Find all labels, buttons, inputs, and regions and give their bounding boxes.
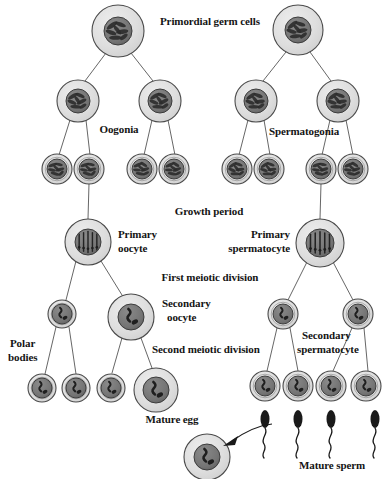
polar-body-3 <box>97 374 125 402</box>
centromere <box>78 246 81 249</box>
oogonia-label: Oogonia <box>99 123 138 135</box>
sperm-tail <box>296 428 299 458</box>
mature-sperm-1 <box>261 410 270 458</box>
centromere <box>87 247 90 250</box>
spermatid-2 <box>283 371 313 401</box>
polar-body-2 <box>62 374 90 402</box>
lineage-line <box>263 52 286 81</box>
spermatogonium-daughter-1 <box>222 154 252 184</box>
oogonium-daughter-3 <box>127 154 157 184</box>
centromere <box>91 247 94 250</box>
spermatogonium-daughter-4 <box>338 154 368 184</box>
lineage-line <box>346 120 353 155</box>
centromere <box>323 248 326 251</box>
meiosis1-line <box>101 261 122 295</box>
first-meiotic-division-label: First meiotic division <box>162 271 259 283</box>
nucleus <box>356 376 376 396</box>
meiosis2-line <box>45 327 56 374</box>
secondary-spermatocyte-right <box>343 299 373 329</box>
oogonium-daughter-4 <box>159 154 189 184</box>
primary-spermatocyte <box>296 219 344 267</box>
oogonium-left <box>57 80 99 122</box>
spermatogonium-left <box>235 80 277 122</box>
meiosis2-line <box>69 327 76 374</box>
secondary-oocyte-label-line1: Secondary <box>162 297 211 309</box>
secondary-oocyte <box>108 294 154 340</box>
primordial-germ-cell-female <box>92 5 144 57</box>
spermatogonium-right <box>317 80 359 122</box>
sperm-head <box>327 410 336 428</box>
secondary-spermatocyte-left <box>268 299 298 329</box>
oogonium-daughter-1 <box>42 154 72 184</box>
nucleus <box>66 378 86 398</box>
lineage-line <box>59 120 70 155</box>
lineage-line <box>131 53 153 81</box>
mature-sperm-2 <box>294 410 303 458</box>
lineage-line <box>168 120 175 155</box>
chromatin-strand <box>248 105 259 109</box>
meiosis1-line <box>333 262 353 300</box>
spermatogonium-daughter-2 <box>254 154 284 184</box>
meiosis2-line <box>364 328 368 371</box>
centromere <box>319 249 322 252</box>
spermatogonium-daughter-3 <box>306 154 336 184</box>
first-polar-body <box>48 300 76 328</box>
meiosis2-line <box>112 338 122 373</box>
secondary-spermatocyte-label-line2: spermatocyte <box>297 343 359 355</box>
mature-sperm-3 <box>327 410 336 458</box>
meiosis1-line <box>288 262 307 300</box>
nucleus <box>52 304 72 324</box>
secondary-spermatocyte-label-line1: Secondary <box>302 329 351 341</box>
sperm-tail <box>373 428 376 458</box>
growth-period-label: Growth period <box>175 205 243 217</box>
polar-bodies-label-line1: Polar <box>10 337 35 349</box>
spermatid-1 <box>250 371 280 401</box>
sperm-tail <box>329 428 332 458</box>
centromere <box>309 247 312 250</box>
lineage-line <box>144 120 152 155</box>
primary-spermatocyte-label-line1: Primary <box>251 228 290 240</box>
mature-egg <box>134 368 178 412</box>
sperm-shapes <box>261 410 380 458</box>
arrow-head <box>223 436 238 446</box>
primary-oocyte-label-line1: Primary <box>118 228 157 240</box>
nucleus <box>273 304 293 324</box>
sperm-tail <box>263 428 266 458</box>
mature-sperm-4 <box>371 410 380 458</box>
polar-bodies-label-line2: bodies <box>8 351 37 363</box>
spermatogonia-label: Spermatogonia <box>269 125 339 137</box>
primary-oocyte <box>65 219 111 265</box>
nucleus <box>101 378 121 398</box>
lineage-line <box>86 120 90 155</box>
centromere <box>96 246 99 249</box>
nucleus <box>143 377 169 403</box>
meiosis1-line <box>66 261 76 300</box>
lineage-line <box>85 53 106 81</box>
primary-oocyte-label-line2: oocyte <box>118 242 147 254</box>
mature-egg-label: Mature egg <box>146 413 199 425</box>
nucleus <box>288 376 308 396</box>
sperm-head <box>294 410 303 428</box>
oogonium-daughter-2 <box>74 154 104 184</box>
lineage-line <box>239 120 248 155</box>
cell-shapes <box>28 5 381 479</box>
sperm-head <box>371 410 380 428</box>
centromere <box>328 247 331 250</box>
chromatin-strand <box>263 172 272 175</box>
nucleus <box>348 304 368 324</box>
primary-spermatocyte-label-line2: spermatocyte <box>228 242 290 254</box>
centromere <box>314 248 317 251</box>
nucleus <box>118 304 144 330</box>
nucleus <box>32 378 52 398</box>
spermatid-4 <box>351 371 381 401</box>
lineage-line <box>310 52 331 81</box>
fertilized-egg <box>184 434 230 479</box>
nucleus <box>194 444 220 470</box>
polar-body-1 <box>28 374 56 402</box>
meiosis2-line <box>267 328 277 371</box>
secondary-oocyte-label-line2: oocyte <box>167 311 196 323</box>
primordial-germ-cell-male <box>273 5 323 55</box>
second-meiotic-division-label: Second meiotic division <box>152 343 260 355</box>
gametogenesis-diagram: Primordial germ cellsOogoniaSpermatogoni… <box>0 0 382 479</box>
nucleus <box>321 376 341 396</box>
